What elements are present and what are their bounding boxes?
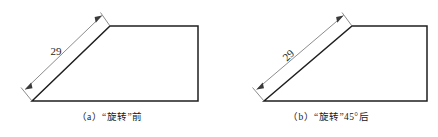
dimension-label-b: 29 [280,47,297,64]
arrowhead-b-end [336,16,343,23]
figure-panel-a: 29 （a）“旋转”前 [0,0,219,137]
figure-b-drawing: 29 [219,0,438,110]
shape-outline-b [264,26,427,101]
caption-b: （b）“旋转”45°后 [219,110,438,124]
extension-line-b-2 [342,13,352,27]
shape-outline-a [32,26,198,101]
arrowhead-b-start [257,82,265,89]
caption-a-index: （a） [77,112,102,122]
caption-b-index: （b） [288,112,314,122]
dimension-label-a: 29 [51,45,63,57]
caption-a: （a）“旋转”前 [0,110,219,124]
arrowhead-a-start [25,82,33,89]
arrowhead-a-end [95,16,102,23]
extension-line-a-1 [21,88,32,102]
caption-a-text: “旋转”前 [102,112,142,122]
figure-root: 29 （a）“旋转”前 29 （b）“旋转”45°后 [0,0,438,137]
figure-a-drawing: 29 [0,0,219,110]
extension-line-b-1 [253,88,265,102]
extension-line-a-2 [101,13,111,27]
caption-b-text: “旋转”45°后 [314,112,369,122]
figure-panel-b: 29 （b）“旋转”45°后 [219,0,438,137]
